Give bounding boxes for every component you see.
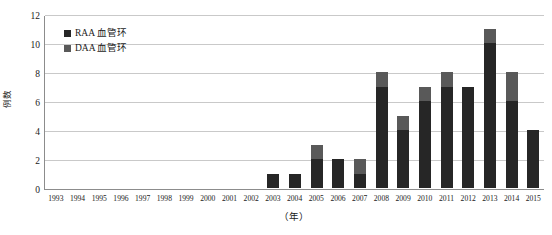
legend-item-label: DAA 血管环 xyxy=(75,43,127,54)
x-axis-tick-label: 1999 xyxy=(175,193,197,207)
bar-column-2006[interactable] xyxy=(328,16,350,188)
y-axis-tick-label: 6 xyxy=(14,98,40,108)
bar-segment-raa xyxy=(311,159,323,188)
x-axis-tick-label: 2004 xyxy=(284,193,306,207)
bar-column-2005[interactable] xyxy=(306,16,328,188)
bar-segment-daa xyxy=(419,87,431,102)
x-axis-tick-label: 2010 xyxy=(414,193,436,207)
legend-item-label: RAA 血管环 xyxy=(75,28,127,39)
bar-segment-daa xyxy=(506,72,518,101)
bar-segment-raa xyxy=(506,101,518,188)
bar-stack xyxy=(311,145,323,189)
bar-column-2015[interactable] xyxy=(522,16,544,188)
bar-segment-raa xyxy=(267,174,279,189)
bar-stack xyxy=(267,174,279,189)
bar-segment-raa xyxy=(354,174,366,189)
chart-legend: RAA 血管环DAA 血管环 xyxy=(64,26,214,56)
bar-stack xyxy=(441,72,453,188)
bar-column-2011[interactable] xyxy=(436,16,458,188)
y-axis-tick-label: 4 xyxy=(14,127,40,137)
x-axis-tick-label: 2003 xyxy=(262,193,284,207)
bar-column-2001[interactable] xyxy=(219,16,241,188)
y-axis-tick-label: 0 xyxy=(14,185,40,195)
bar-segment-raa xyxy=(376,87,388,189)
x-axis-tick-label: 1996 xyxy=(110,193,132,207)
bar-segment-raa xyxy=(484,43,496,188)
x-axis-tick-label: 2005 xyxy=(305,193,327,207)
bar-column-2002[interactable] xyxy=(241,16,263,188)
x-axis-tick-labels: 1993199419951996199719981999200020012002… xyxy=(45,193,544,207)
legend-swatch-raa xyxy=(64,30,71,37)
x-axis-tick-label: 2014 xyxy=(501,193,523,207)
x-axis-tick-label: 2000 xyxy=(197,193,219,207)
bar-column-2009[interactable] xyxy=(393,16,415,188)
bar-column-2013[interactable] xyxy=(479,16,501,188)
bar-column-2012[interactable] xyxy=(457,16,479,188)
x-axis-tick-label: 2008 xyxy=(371,193,393,207)
bar-segment-daa xyxy=(376,72,388,87)
bar-segment-raa xyxy=(441,87,453,189)
x-axis-tick-label: 2001 xyxy=(219,193,241,207)
bar-segment-daa xyxy=(397,116,409,131)
y-axis-tick-label: 12 xyxy=(14,11,40,21)
bar-column-2010[interactable] xyxy=(414,16,436,188)
x-axis-title: （年） xyxy=(44,211,544,223)
x-axis-tick-label: 2012 xyxy=(457,193,479,207)
x-axis-tick-label: 2011 xyxy=(436,193,458,207)
x-axis-tick-label: 2002 xyxy=(240,193,262,207)
bar-segment-daa xyxy=(311,145,323,160)
x-axis-tick-label: 2015 xyxy=(522,193,544,207)
bar-stack xyxy=(506,72,518,188)
bar-segment-raa xyxy=(419,101,431,188)
bar-stack xyxy=(289,174,301,189)
x-axis-tick-label: 2006 xyxy=(327,193,349,207)
bar-stack xyxy=(419,87,431,189)
y-axis-title: 例数 xyxy=(3,94,12,108)
bar-stack xyxy=(332,159,344,188)
bar-stack xyxy=(527,130,539,188)
stacked-bar-chart: 例数 121086420 199319941995199619971998199… xyxy=(0,0,552,235)
x-axis-tick-label: 2009 xyxy=(392,193,414,207)
x-axis-tick-label: 1998 xyxy=(154,193,176,207)
bar-stack xyxy=(462,87,474,189)
x-axis-tick-label: 1994 xyxy=(67,193,89,207)
bar-column-2003[interactable] xyxy=(263,16,285,188)
legend-item[interactable]: DAA 血管环 xyxy=(64,41,214,55)
bar-segment-raa xyxy=(462,87,474,189)
x-axis-tick-label: 1995 xyxy=(88,193,110,207)
bar-column-2007[interactable] xyxy=(349,16,371,188)
y-axis-tick-label: 10 xyxy=(14,40,40,50)
bar-stack xyxy=(397,116,409,189)
x-axis-tick-label: 1997 xyxy=(132,193,154,207)
x-axis-tick-label: 2007 xyxy=(349,193,371,207)
bar-stack xyxy=(376,72,388,188)
bar-stack xyxy=(354,159,366,188)
legend-item[interactable]: RAA 血管环 xyxy=(64,26,214,40)
bar-segment-daa xyxy=(484,29,496,44)
bar-stack xyxy=(484,29,496,189)
gridline xyxy=(45,189,544,190)
bar-segment-raa xyxy=(332,159,344,188)
bar-segment-raa xyxy=(397,130,409,188)
legend-swatch-daa xyxy=(64,45,71,52)
bar-column-2008[interactable] xyxy=(371,16,393,188)
x-axis-tick-label: 2013 xyxy=(479,193,501,207)
y-axis-tick-label: 8 xyxy=(14,69,40,79)
bar-segment-daa xyxy=(441,72,453,87)
bar-column-2014[interactable] xyxy=(501,16,523,188)
y-axis-tick-label: 2 xyxy=(14,156,40,166)
bar-column-2004[interactable] xyxy=(284,16,306,188)
y-axis-tick-labels: 121086420 xyxy=(14,0,44,235)
bar-segment-raa xyxy=(527,130,539,188)
bar-segment-raa xyxy=(289,174,301,189)
bar-segment-daa xyxy=(354,159,366,174)
x-axis-tick-label: 1993 xyxy=(45,193,67,207)
